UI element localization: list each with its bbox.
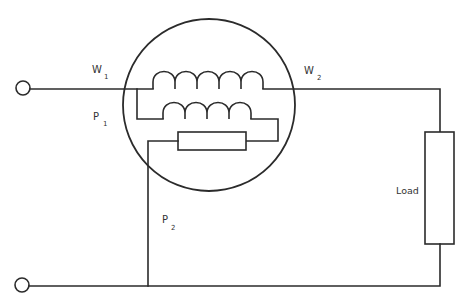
svg-text:2: 2	[317, 74, 321, 82]
pressure-coil-return-wire	[246, 119, 278, 141]
load-resistor	[425, 132, 454, 244]
supply-terminal-bottom	[15, 278, 29, 292]
label-p1: P 1	[93, 111, 107, 128]
svg-text:1: 1	[103, 120, 107, 128]
label-load: Load	[396, 185, 419, 196]
label-w1: W 1	[92, 64, 108, 81]
svg-text:2: 2	[171, 224, 175, 232]
pressure-branch-wire	[137, 89, 163, 119]
svg-text:W: W	[304, 65, 314, 76]
neutral-wire	[29, 244, 440, 286]
series-resistor	[178, 132, 246, 150]
pressure-coil	[163, 103, 251, 120]
svg-text:P: P	[162, 214, 168, 225]
svg-text:W: W	[92, 64, 102, 75]
line-wire-out	[263, 89, 440, 132]
svg-text:P: P	[93, 111, 99, 122]
svg-text:1: 1	[104, 73, 108, 81]
wattmeter-circuit-diagram: W 1 P 1 W 2 P 2 Load	[0, 0, 468, 304]
label-p2: P 2	[162, 214, 175, 232]
current-coil	[153, 72, 263, 90]
label-w2: W 2	[304, 65, 321, 82]
supply-terminal-top	[16, 81, 30, 95]
